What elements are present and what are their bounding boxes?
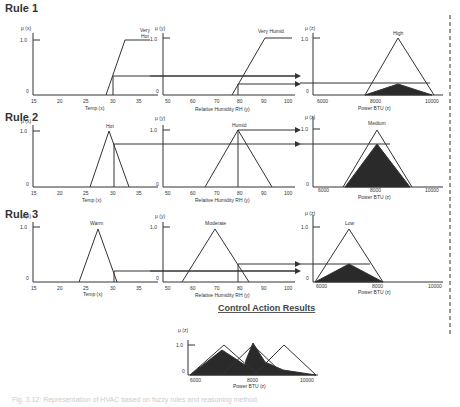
rule-1-label: Rule 1 [5,2,38,14]
svg-text:μ (z): μ (z) [305,114,315,120]
svg-text:1.0: 1.0 [20,224,27,230]
svg-text:1.0: 1.0 [176,342,183,348]
svg-text:μ (x): μ (x) [21,118,31,124]
svg-text:μ (y): μ (y) [155,213,165,219]
fuzzy-inference-diagram: Rule 1 Rule 2 Rule 3 μ (x) 1.00 15202530… [0,0,460,407]
svg-text:1.0: 1.0 [150,224,157,230]
svg-text:μ (x): μ (x) [21,25,31,31]
svg-text:8000: 8000 [370,187,381,193]
svg-text:50: 50 [165,190,171,196]
svg-text:35: 35 [136,285,142,291]
svg-text:15: 15 [31,190,37,196]
svg-text:8000: 8000 [370,98,381,104]
svg-text:Hot: Hot [106,123,114,129]
svg-text:6000: 6000 [317,98,328,104]
svg-text:Power BTU (z): Power BTU (z) [233,383,266,389]
figure-caption: Fig. 3.12: Representation of HVAC based … [12,396,259,403]
svg-text:30: 30 [110,190,116,196]
svg-text:60: 60 [190,98,196,104]
svg-text:μ (y): μ (y) [155,25,165,31]
svg-text:1.0: 1.0 [20,37,27,43]
svg-text:60: 60 [190,190,196,196]
svg-text:1.0: 1.0 [150,127,157,133]
svg-text:Power BTU (z): Power BTU (z) [358,289,391,295]
svg-text:μ (z): μ (z) [305,25,315,31]
svg-text:0: 0 [26,275,29,281]
svg-text:Temp (x): Temp (x) [85,105,105,111]
svg-text:90: 90 [261,190,267,196]
svg-text:Medium: Medium [368,120,386,126]
svg-text:Moderate: Moderate [205,220,226,226]
svg-text:1.0: 1.0 [20,128,27,134]
svg-text:25: 25 [83,190,89,196]
svg-text:20: 20 [57,285,63,291]
svg-text:Relative Humidity RH (y): Relative Humidity RH (y) [195,292,250,298]
svg-text:0: 0 [306,88,309,94]
svg-text:35: 35 [136,190,142,196]
svg-text:Very Humid: Very Humid [258,28,284,34]
svg-text:High: High [393,30,404,36]
svg-text:100: 100 [284,98,293,104]
svg-text:70: 70 [214,98,220,104]
svg-text:μ (z): μ (z) [305,210,315,216]
svg-text:0: 0 [156,88,159,94]
svg-text:70: 70 [214,285,220,291]
svg-text:1.0: 1.0 [301,224,308,230]
svg-text:0: 0 [26,181,29,187]
svg-text:0: 0 [182,368,185,374]
svg-text:1.0: 1.0 [301,36,308,42]
svg-text:0: 0 [156,275,159,281]
svg-text:Humid: Humid [232,122,247,128]
svg-text:10000: 10000 [425,98,439,104]
svg-text:μ (x): μ (x) [21,213,31,219]
svg-text:30: 30 [110,285,116,291]
svg-text:70: 70 [214,190,220,196]
svg-text:Power BTU (z): Power BTU (z) [358,194,391,200]
svg-text:Relative Humidity RH (y): Relative Humidity RH (y) [195,197,250,203]
svg-text:μ (y): μ (y) [155,115,165,121]
svg-text:Temp (x): Temp (x) [82,197,102,203]
svg-text:6000: 6000 [318,187,329,193]
svg-text:1.0: 1.0 [301,126,308,132]
svg-text:50: 50 [165,285,171,291]
svg-text:μ (z): μ (z) [178,327,188,333]
svg-text:25: 25 [83,98,89,104]
svg-text:80: 80 [237,285,243,291]
svg-text:Power BTU (z): Power BTU (z) [358,105,391,111]
svg-text:20: 20 [57,190,63,196]
svg-text:Relative Humidity RH (y): Relative Humidity RH (y) [195,106,250,112]
svg-text:10000: 10000 [300,377,314,383]
svg-text:100: 100 [284,285,293,291]
svg-text:0: 0 [26,88,29,94]
svg-text:6000: 6000 [190,377,201,383]
svg-text:80: 80 [237,190,243,196]
svg-text:Temp (x): Temp (x) [83,291,103,297]
svg-text:50: 50 [165,98,171,104]
svg-text:0: 0 [156,181,159,187]
svg-text:1.0: 1.0 [150,36,157,42]
svg-text:100: 100 [284,190,293,196]
svg-text:10000: 10000 [425,187,439,193]
svg-text:15: 15 [31,285,37,291]
svg-text:90: 90 [261,98,267,104]
svg-text:Low: Low [345,220,355,226]
svg-text:60: 60 [190,285,196,291]
svg-text:6000: 6000 [316,283,327,289]
svg-text:80: 80 [237,98,243,104]
svg-text:0: 0 [306,275,309,281]
svg-text:20: 20 [57,98,63,104]
svg-text:30: 30 [110,98,116,104]
svg-text:0: 0 [306,181,309,187]
result-title: Control Action Results [218,303,315,313]
svg-text:35: 35 [136,98,142,104]
svg-text:Hot: Hot [141,33,149,39]
svg-text:15: 15 [31,98,37,104]
svg-text:10000: 10000 [428,283,442,289]
svg-text:Warm: Warm [90,220,103,226]
svg-text:90: 90 [261,285,267,291]
